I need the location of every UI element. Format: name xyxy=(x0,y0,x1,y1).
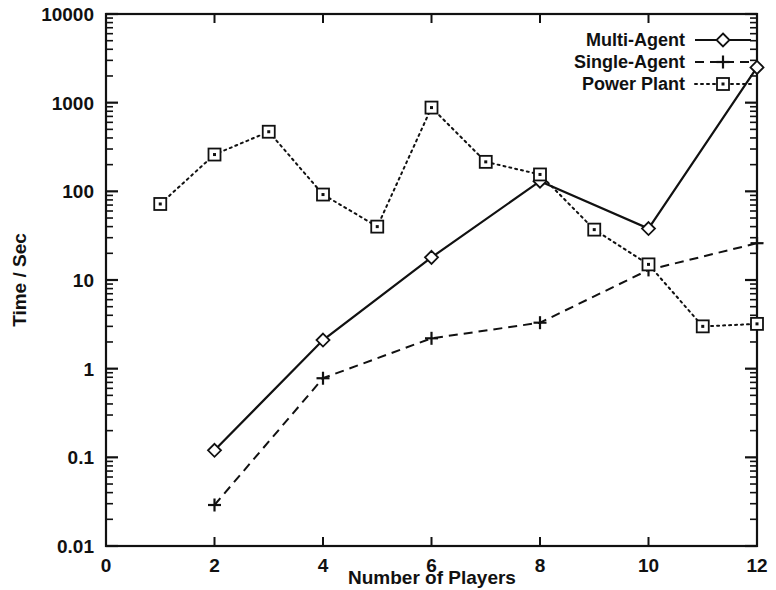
y-axis-title: Time / Sec xyxy=(9,233,30,327)
x-axis-title: Number of Players xyxy=(348,567,516,588)
y-tick-label: 10 xyxy=(73,270,94,291)
chart-legend: Multi-AgentSingle-AgentPower Plant xyxy=(574,30,751,94)
legend-entry-power-plant: Power Plant xyxy=(582,74,751,94)
y-axis-tick-labels: 0.010.1110100100010000 xyxy=(41,4,94,557)
legend-entry-single-agent: Single-Agent xyxy=(574,52,751,72)
series-single-agent xyxy=(208,237,764,512)
y-tick-label: 0.1 xyxy=(68,447,95,468)
legend-entry-multi-agent: Multi-Agent xyxy=(586,30,751,50)
chart-figure: 024681012 0.010.1110100100010000 Multi-A… xyxy=(0,0,776,590)
data-series-layer xyxy=(154,61,763,512)
legend-label: Power Plant xyxy=(582,74,685,94)
x-tick-label: 8 xyxy=(535,555,546,576)
y-tick-label: 0.01 xyxy=(57,536,94,557)
x-tick-label: 12 xyxy=(746,555,767,576)
x-tick-label: 0 xyxy=(101,555,112,576)
x-tick-label: 4 xyxy=(318,555,329,576)
legend-label: Single-Agent xyxy=(574,52,685,72)
x-tick-label: 10 xyxy=(638,555,659,576)
series-multi-agent xyxy=(208,61,764,457)
x-tick-label: 2 xyxy=(209,555,220,576)
y-tick-label: 1000 xyxy=(52,93,94,114)
series-power-plant xyxy=(154,102,763,333)
line-chart: 024681012 0.010.1110100100010000 Multi-A… xyxy=(0,0,776,590)
y-tick-label: 10000 xyxy=(41,4,94,25)
legend-label: Multi-Agent xyxy=(586,30,685,50)
y-tick-label: 100 xyxy=(62,181,94,202)
y-tick-label: 1 xyxy=(83,359,94,380)
